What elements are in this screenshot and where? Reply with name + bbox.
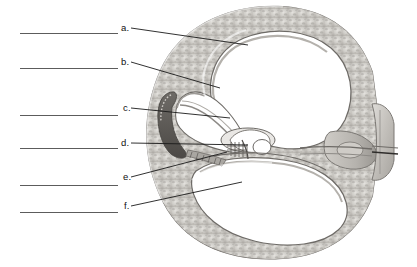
figure-page: a. b. c. d. e. f.: [0, 0, 417, 267]
label-letter-e: e.: [123, 172, 131, 182]
label-letter-f: f.: [124, 201, 130, 211]
answer-line-e[interactable]: [20, 185, 118, 186]
answer-line-f[interactable]: [20, 212, 118, 213]
label-letter-a: a.: [121, 23, 129, 33]
answer-line-c[interactable]: [20, 115, 118, 116]
label-letter-c: c.: [123, 103, 131, 113]
answer-line-a[interactable]: [20, 33, 118, 34]
answer-line-d[interactable]: [20, 148, 118, 149]
answer-line-b[interactable]: [20, 68, 118, 69]
cochlea-illustration: [0, 0, 417, 267]
label-letter-b: b.: [121, 57, 129, 67]
label-letter-d: d.: [121, 138, 129, 148]
